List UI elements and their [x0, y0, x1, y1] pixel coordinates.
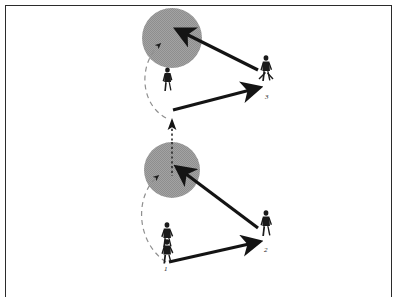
- player-figure-2: [261, 210, 273, 236]
- zone-lower-circle: [144, 142, 200, 198]
- player-label-2: 2: [264, 247, 268, 254]
- player-figure-upper-runner: [163, 67, 173, 91]
- player-label-3: 3: [265, 94, 269, 101]
- arrow-player2-to-lower-zone: [178, 168, 258, 228]
- player-label-1: 1: [164, 266, 168, 273]
- player-figure-3: [259, 55, 274, 81]
- arrow-to-player3: [173, 88, 258, 110]
- arrow-player1-to-player2: [169, 242, 258, 262]
- run-vertical-arrowhead: [168, 118, 177, 130]
